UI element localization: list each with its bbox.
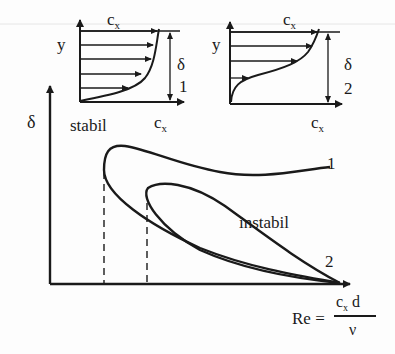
curve-1-label: 1 [327,155,336,172]
unstable-region-label: instabil [239,214,289,231]
boundary-layer-stability-diagram: y cx δ 1 cx y cx δ 2 cx δ stabil instabi… [0,0,395,354]
profile-2-cx-top: cx [283,11,296,31]
profile-1-delta-label: δ [177,56,185,73]
velocity-profile-1 [80,20,184,102]
reynolds-formula-denominator: ν [349,322,356,338]
profile-2-delta-label: δ [344,56,352,73]
reynolds-formula-lhs: Re = [292,310,325,327]
profile-1-cx-bottom: cx [154,114,167,134]
profile-1-index-label: 1 [179,78,188,95]
reynolds-formula-fraction-bar [334,315,376,317]
stable-region-label: stabil [70,117,107,134]
delta-axis-label: δ [27,113,35,131]
profile-1-cx-top: cx [107,11,120,31]
profile-1-y-label: y [57,36,66,53]
reynolds-formula-numerator: cx d [336,294,360,313]
velocity-profile-2 [230,22,342,104]
profile-2-cx-bottom: cx [311,114,324,134]
profile-2-y-label: y [212,36,221,53]
profile-2-index-label: 2 [344,80,353,97]
neutral-curve-2 [146,184,340,283]
curve-2-label: 2 [325,253,334,270]
